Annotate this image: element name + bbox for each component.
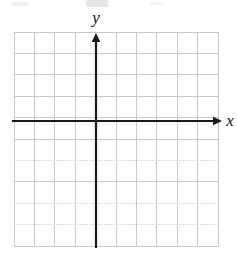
- coordinate-plane-graphic: y x: [0, 0, 238, 253]
- grid-lines-group: [14, 32, 218, 246]
- y-axis-arrowhead-icon: [92, 33, 101, 42]
- scan-smudge-1: [86, 0, 108, 7]
- scan-smudge-2: [150, 2, 164, 5]
- y-axis-label: y: [90, 8, 100, 27]
- x-axis-label: x: [225, 111, 234, 130]
- scan-smudge-0: [12, 2, 28, 6]
- axes-group: [12, 33, 222, 248]
- scan-artifact-group: [12, 0, 164, 7]
- figure-canvas: y x: [0, 0, 238, 253]
